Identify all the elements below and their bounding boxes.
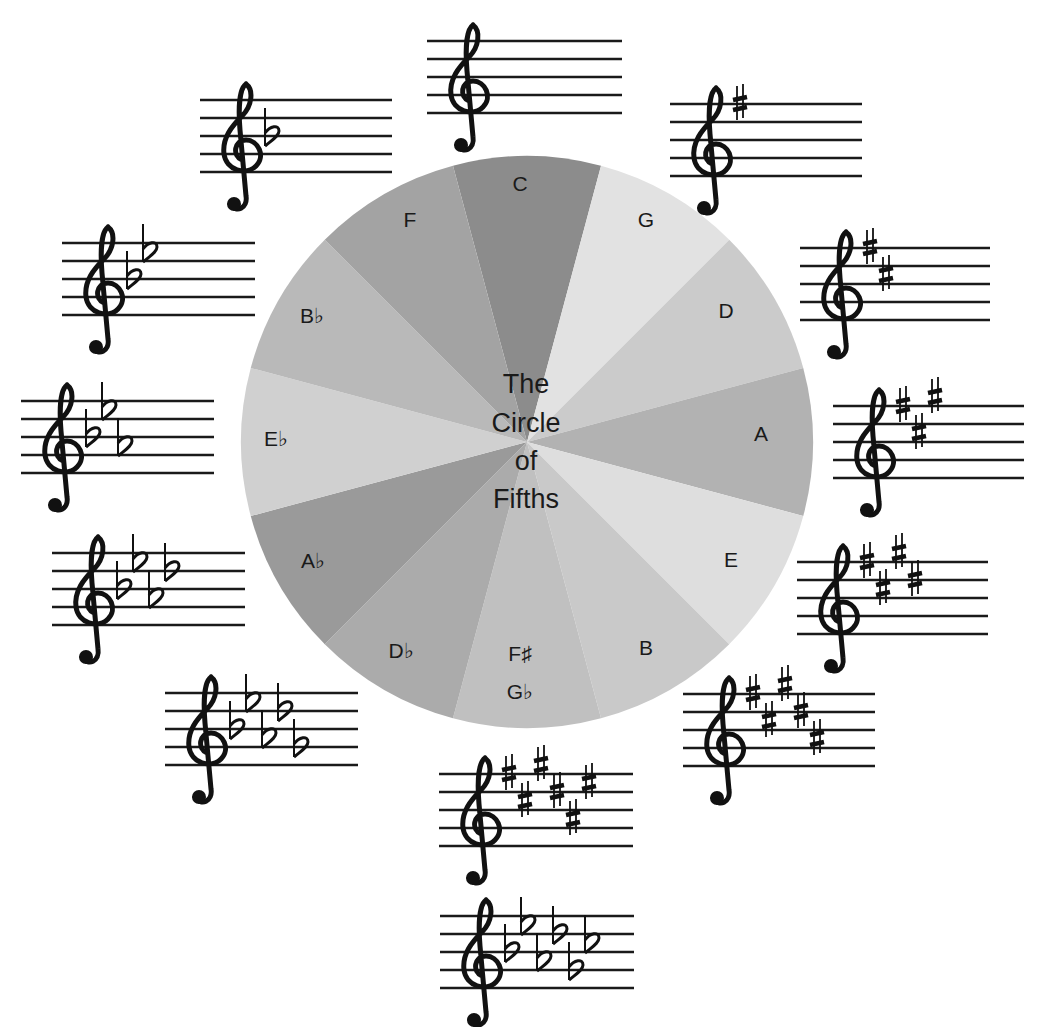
sharp-icon (778, 665, 792, 701)
treble-clef-icon (694, 88, 731, 215)
sharp-icon (794, 692, 808, 728)
sharp-icon (566, 799, 580, 835)
slice-label: B♭ (300, 304, 324, 327)
treble-clef-icon (463, 758, 500, 885)
staff-B (683, 665, 875, 805)
staff-C (427, 25, 622, 152)
flat-icon (278, 683, 292, 721)
flat-icon (127, 251, 141, 289)
sharp-icon (746, 674, 760, 710)
staff-Eb (21, 382, 214, 512)
title-line: The (503, 369, 550, 399)
staff-A (833, 377, 1024, 517)
sharp-icon (518, 781, 532, 817)
slice-label: E♭ (264, 427, 288, 450)
sharp-icon (534, 745, 548, 781)
sharp-icon (912, 413, 926, 449)
staff-Db (165, 674, 358, 804)
staff-D (800, 228, 990, 359)
slice-label: D (718, 299, 733, 322)
staff-E (797, 533, 988, 673)
sharp-icon (879, 255, 893, 291)
sharp-icon (860, 542, 874, 578)
staff-Gb (440, 897, 634, 1027)
slice-label-alt: G♭ (507, 680, 533, 703)
slice-label: A♭ (301, 549, 325, 572)
circle-of-fifths-diagram: CGDAEBF♯G♭D♭A♭E♭B♭F TheCircleofFifths (0, 0, 1043, 1027)
sharp-icon (582, 763, 596, 799)
flat-icon (265, 108, 279, 146)
staff-F# (439, 745, 633, 885)
sharp-icon (928, 377, 942, 413)
flat-icon (165, 543, 179, 581)
staff-G (670, 84, 862, 215)
title-line: of (515, 446, 538, 476)
flat-icon (569, 942, 583, 980)
sharp-icon (896, 386, 910, 422)
title-line: Fifths (493, 484, 559, 514)
slice-label: G (638, 208, 654, 231)
treble-clef-icon (464, 900, 501, 1027)
treble-clef-icon (86, 227, 123, 354)
slice-label: C (512, 172, 527, 195)
treble-clef-icon (45, 385, 82, 512)
slice-label: F♯ (508, 642, 532, 665)
treble-clef-icon (224, 84, 261, 211)
treble-clef-icon (189, 677, 226, 804)
sharp-icon (892, 533, 906, 569)
flat-icon (294, 719, 308, 757)
treble-clef-icon (821, 546, 858, 673)
sharp-icon (863, 228, 877, 264)
flat-icon (230, 701, 244, 739)
staff-F (200, 84, 392, 211)
sharp-icon (762, 701, 776, 737)
slice-label: B (639, 636, 653, 659)
treble-clef-icon (824, 232, 861, 359)
treble-clef-icon (76, 537, 113, 664)
flat-icon (117, 561, 131, 599)
sharp-icon (733, 84, 747, 120)
sharp-icon (810, 719, 824, 755)
staff-Ab (52, 534, 245, 664)
sharp-icon (550, 772, 564, 808)
sharp-icon (908, 560, 922, 596)
title-line: Circle (491, 408, 560, 438)
flat-icon (553, 906, 567, 944)
treble-clef-icon (707, 678, 744, 805)
sharp-icon (876, 569, 890, 605)
flat-icon (86, 409, 100, 447)
slice-label: A (754, 422, 768, 445)
staff-Bb (62, 224, 255, 354)
slice-label: F (404, 208, 417, 231)
slice-label: E (724, 548, 738, 571)
treble-clef-icon (451, 25, 488, 152)
sharp-icon (502, 754, 516, 790)
slice-label: D♭ (388, 639, 413, 662)
flat-icon (505, 924, 519, 962)
treble-clef-icon (857, 390, 894, 517)
